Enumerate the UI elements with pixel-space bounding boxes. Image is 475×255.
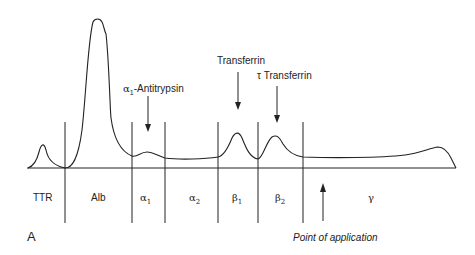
transferrin-arrow: [235, 72, 241, 110]
point-of-application-label: Point of application: [293, 232, 378, 243]
fraction-label-alb: Alb: [91, 192, 106, 203]
fraction-label-beta2: β2: [275, 192, 285, 206]
point-of-application-arrow: [320, 183, 326, 221]
alpha1-antitrypsin-arrow: [145, 96, 151, 132]
fraction-label-ttr: TTR: [33, 192, 52, 203]
electrophoresis-diagram: α1-Antitrypsin Transferrin τ Transferrin…: [0, 0, 475, 255]
fraction-label-alpha1: α1: [140, 192, 151, 206]
tau-transferrin-label: τ Transferrin: [257, 70, 312, 81]
fraction-label-beta1: β1: [232, 192, 242, 206]
panel-label: A: [27, 229, 36, 244]
fraction-label-gamma: γ: [368, 192, 374, 203]
fraction-boundaries: [65, 122, 303, 223]
transferrin-label: Transferrin: [217, 55, 265, 66]
alpha1-antitrypsin-label: α1-Antitrypsin: [123, 83, 184, 96]
densitometry-trace: [28, 19, 456, 168]
fraction-label-alpha2: α2: [189, 192, 200, 206]
tau-transferrin-arrow: [274, 86, 280, 123]
